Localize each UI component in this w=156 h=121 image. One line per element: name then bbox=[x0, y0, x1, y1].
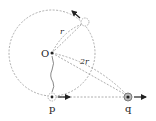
radius-label: r bbox=[60, 27, 65, 36]
point-q-label: q bbox=[125, 103, 132, 114]
distance-label: 2r bbox=[79, 57, 90, 66]
point-p-label: p bbox=[49, 103, 55, 114]
diagram-canvas: O r 2r p q bbox=[0, 0, 156, 121]
distance-line bbox=[52, 53, 128, 96]
wavy-line bbox=[51, 56, 54, 92]
center-point bbox=[51, 52, 54, 55]
center-label: O bbox=[41, 48, 49, 59]
point-p-dot bbox=[51, 96, 54, 99]
radius-line bbox=[52, 22, 84, 53]
top-point bbox=[81, 18, 89, 26]
point-q-dot bbox=[126, 95, 129, 98]
